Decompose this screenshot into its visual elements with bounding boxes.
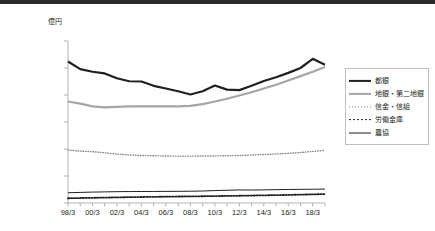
series-line-0 (68, 59, 325, 95)
series-line-4 (68, 189, 325, 193)
x-tick-label: 16/3 (281, 208, 296, 217)
chart-figure: 億円 3,000,000 2,500,000 2,000,000 1,500,0… (0, 0, 435, 231)
x-tick-label: 14/3 (256, 208, 271, 217)
x-tick-label: 06/3 (159, 208, 174, 217)
legend-swatch-icon (349, 115, 371, 125)
legend-label: 地銀・第二地銀 (375, 89, 424, 99)
x-tick-label: 08/3 (183, 208, 198, 217)
x-tick-label: 00/3 (85, 208, 100, 217)
data-series-layer (68, 59, 325, 198)
axes (68, 41, 325, 203)
legend-label: 信金・信組 (375, 102, 410, 112)
legend-swatch-icon (349, 102, 371, 112)
x-tick-label: 02/3 (110, 208, 125, 217)
x-tick-label: 18/3 (305, 208, 320, 217)
x-tick-label: 10/3 (208, 208, 223, 217)
legend-swatch-icon (349, 89, 371, 99)
y-axis-ticks (64, 41, 68, 203)
chart-legend: 都銀地銀・第二地銀信金・信組労働金庫農協 (345, 68, 429, 145)
legend-item-1[interactable]: 地銀・第二地銀 (349, 87, 425, 100)
legend-item-0[interactable]: 都銀 (349, 74, 425, 87)
x-tick-label: 98/3 (61, 208, 76, 217)
legend-item-2[interactable]: 信金・信組 (349, 100, 425, 113)
legend-label: 農協 (375, 128, 389, 138)
series-line-3 (68, 194, 325, 198)
x-axis-ticks (68, 203, 325, 207)
x-tick-label: 12/3 (232, 208, 247, 217)
legend-swatch-icon (349, 76, 371, 86)
legend-item-4[interactable]: 農協 (349, 126, 425, 139)
legend-item-3[interactable]: 労働金庫 (349, 113, 425, 126)
x-tick-label: 04/3 (134, 208, 149, 217)
legend-swatch-icon (349, 128, 371, 138)
legend-label: 都銀 (375, 76, 389, 86)
series-line-2 (68, 150, 325, 156)
legend-label: 労働金庫 (375, 115, 403, 125)
